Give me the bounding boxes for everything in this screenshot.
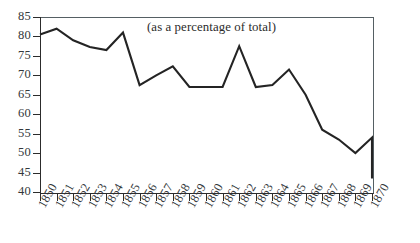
y-axis-tick: [33, 56, 41, 57]
y-axis-tick: [33, 75, 41, 76]
y-axis-tick: [33, 134, 41, 135]
y-axis-tick-label: 65: [5, 88, 31, 101]
y-axis-tick-label: 45: [5, 166, 31, 179]
y-axis-tick-label: 85: [5, 10, 31, 23]
y-axis-tick: [33, 36, 41, 37]
y-axis-tick-label: 50: [5, 146, 31, 159]
y-axis-tick-label: 55: [5, 127, 31, 140]
y-axis-tick-label: 70: [5, 68, 31, 81]
y-axis-labels: 40455055606570758085: [0, 0, 31, 243]
y-axis-tick: [33, 95, 41, 96]
y-axis-tick-label: 75: [5, 49, 31, 62]
y-axis-tick-label: 80: [5, 29, 31, 42]
y-axis-tick: [33, 114, 41, 115]
chart-page: 40455055606570758085 1850185118521853185…: [0, 0, 420, 243]
y-axis-tick: [33, 173, 41, 174]
y-axis-tick-label: 40: [5, 185, 31, 198]
y-axis-tick: [33, 192, 41, 193]
line-series-svg: [40, 17, 372, 192]
y-axis-tick: [33, 17, 41, 18]
y-axis-tick-label: 60: [5, 107, 31, 120]
chart-title: (as a percentage of total): [147, 20, 276, 35]
y-axis-tick: [33, 153, 41, 154]
data-line: [40, 29, 372, 179]
